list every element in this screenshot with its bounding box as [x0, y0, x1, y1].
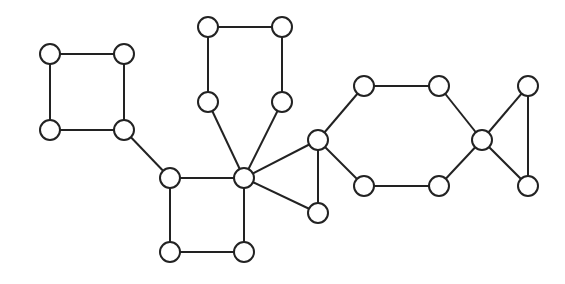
node-M — [308, 130, 328, 150]
edge-J-N — [244, 178, 318, 213]
node-S — [472, 130, 492, 150]
graph-diagram — [0, 0, 565, 284]
node-J — [234, 168, 254, 188]
nodes-layer — [40, 17, 538, 262]
node-C — [40, 120, 60, 140]
node-I — [160, 168, 180, 188]
node-U — [518, 176, 538, 196]
node-T — [518, 76, 538, 96]
node-B — [114, 44, 134, 64]
node-L — [234, 242, 254, 262]
node-R — [429, 176, 449, 196]
edge-H-J — [244, 102, 282, 178]
node-A — [40, 44, 60, 64]
edge-G-J — [208, 102, 244, 178]
node-G — [198, 92, 218, 112]
node-H — [272, 92, 292, 112]
node-K — [160, 242, 180, 262]
node-E — [198, 17, 218, 37]
node-N — [308, 203, 328, 223]
node-O — [354, 76, 374, 96]
node-F — [272, 17, 292, 37]
node-D — [114, 120, 134, 140]
node-Q — [354, 176, 374, 196]
edge-J-M — [244, 140, 318, 178]
node-P — [429, 76, 449, 96]
